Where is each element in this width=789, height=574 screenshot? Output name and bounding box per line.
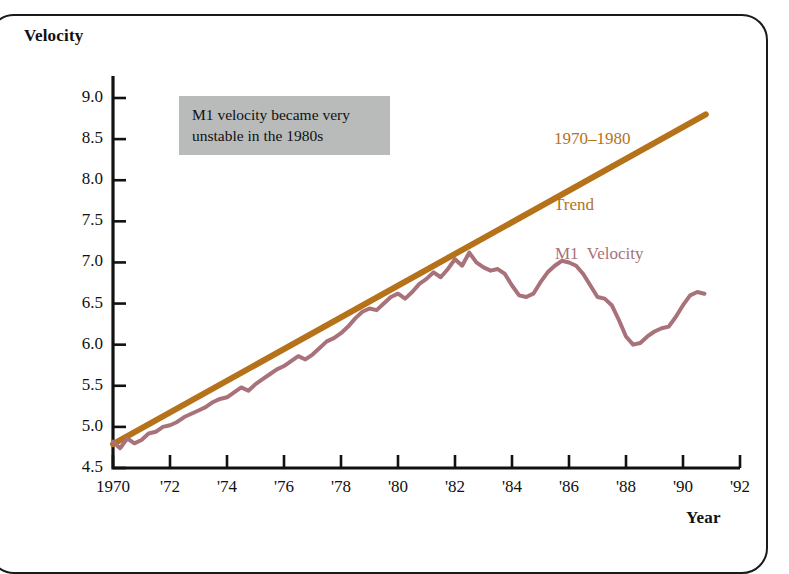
trend-label-line-2: Trend (554, 194, 631, 216)
trend-label-line-1: 1970–1980 (554, 128, 631, 150)
x-axis-tick-label: '92 (710, 477, 770, 497)
annotation-line-1: M1 velocity became very (192, 105, 377, 126)
x-axis-tick-label: '82 (425, 477, 485, 497)
y-axis-tick-label: 8.5 (57, 128, 103, 148)
annotation-line-2: unstable in the 1980s (192, 126, 377, 147)
m1-series-label: M1 Velocity (555, 243, 643, 265)
x-axis-tick-label: '90 (653, 477, 713, 497)
x-axis-tick-label: '88 (596, 477, 656, 497)
y-axis-tick-label: 5.5 (57, 375, 103, 395)
x-axis-tick-label: '76 (254, 477, 314, 497)
x-axis-title: Year (686, 508, 721, 528)
x-axis-tick-label: '74 (197, 477, 257, 497)
x-axis-tick-label: '78 (311, 477, 371, 497)
x-axis-tick-label: '84 (482, 477, 542, 497)
y-axis-tick-label: 7.0 (57, 251, 103, 271)
x-axis-tick-label: '72 (140, 477, 200, 497)
y-axis-tick-label: 5.0 (57, 416, 103, 436)
x-axis-tick-label: 1970 (83, 477, 143, 497)
y-axis-tick-label: 4.5 (57, 457, 103, 477)
y-axis-tick-label: 6.0 (57, 334, 103, 354)
y-axis-tick-label: 6.5 (57, 293, 103, 313)
x-axis-tick-label: '80 (368, 477, 428, 497)
y-axis-tick-label: 9.0 (57, 87, 103, 107)
y-axis-title: Velocity (24, 26, 84, 46)
y-axis-tick-label: 7.5 (57, 210, 103, 230)
annotation-callout: M1 velocity became very unstable in the … (179, 96, 390, 155)
trend-series-label: 1970–1980 Trend (554, 84, 631, 261)
y-axis-tick-label: 8.0 (57, 169, 103, 189)
x-axis-tick-label: '86 (539, 477, 599, 497)
